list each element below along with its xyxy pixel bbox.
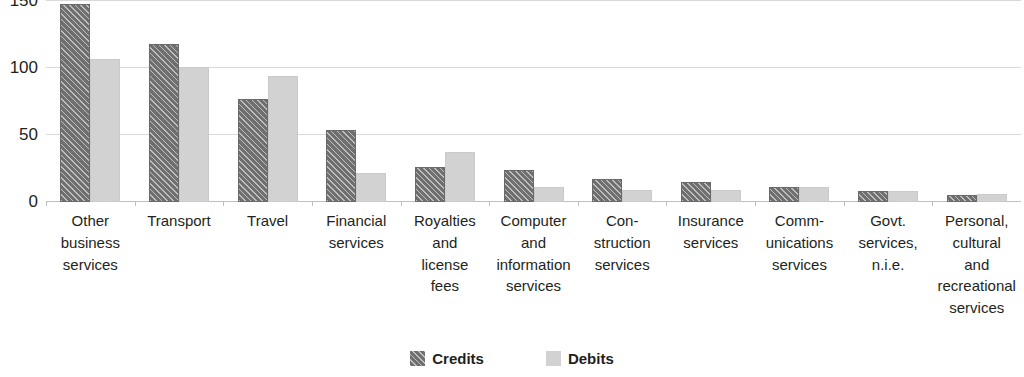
x-axis-label-line: Computer [491, 210, 576, 232]
x-axis-label-line: and [403, 232, 488, 254]
bar-group [46, 0, 135, 202]
x-axis-tick [666, 201, 667, 206]
legend-label: Credits [432, 350, 484, 367]
bar-group [578, 0, 667, 202]
bar-debits [534, 187, 564, 202]
bar-debits [445, 152, 475, 202]
bar-debits [90, 59, 120, 202]
x-axis-category-label: Travel [223, 210, 312, 319]
y-axis-tick-label: 50 [0, 126, 38, 143]
x-axis-tick [401, 201, 402, 206]
x-axis-category-label: Con-structionservices [578, 210, 667, 319]
bar-group [666, 0, 755, 202]
x-axis-label-line: Financial [314, 210, 399, 232]
bar-credits [149, 44, 179, 202]
bar-group [401, 0, 490, 202]
x-axis-category-label: Computerandinformationservices [489, 210, 578, 319]
bar-series-container [46, 0, 1021, 202]
bar-group [312, 0, 401, 202]
bar-group [755, 0, 844, 202]
bar-credits [60, 4, 90, 202]
bar-credits [947, 195, 977, 202]
credits-swatch [410, 351, 425, 366]
x-axis-label-line: Con- [580, 210, 665, 232]
bar-debits [268, 76, 298, 202]
bar-credits [415, 167, 445, 202]
bar-credits [238, 99, 268, 202]
x-axis-label-line: Personal, [934, 210, 1019, 232]
x-axis-label-line: Comm- [757, 210, 842, 232]
x-axis-category-label: Personal,culturalandrecreationalservices [932, 210, 1021, 319]
x-axis-label-line: services, [846, 232, 931, 254]
x-axis-tick [312, 201, 313, 206]
x-axis-category-label: Royaltiesandlicensefees [401, 210, 490, 319]
x-axis-tick [223, 201, 224, 206]
x-axis-tick [489, 201, 490, 206]
x-axis-label-line: recreational [934, 275, 1019, 297]
x-axis-label-line: services [668, 232, 753, 254]
bar-credits [592, 179, 622, 202]
bar-debits [356, 173, 386, 202]
bar-group [844, 0, 933, 202]
legend-item-debits[interactable]: Debits [546, 350, 614, 367]
x-axis-tick [46, 201, 47, 206]
x-axis-label-line: struction [580, 232, 665, 254]
x-axis-label-line: Other [48, 210, 133, 232]
x-axis-labels: OtherbusinessservicesTransportTravelFina… [46, 210, 1021, 319]
x-axis-label-line: fees [403, 275, 488, 297]
chart-page: 050100150 OtherbusinessservicesTransport… [0, 0, 1024, 377]
plot-area [46, 0, 1021, 202]
chart-legend: CreditsDebits [0, 350, 1024, 367]
y-axis-tick-label: 150 [0, 0, 38, 9]
x-axis-label-line: Royalties [403, 210, 488, 232]
x-axis-category-label: Otherbusinessservices [46, 210, 135, 319]
bar-debits [711, 190, 741, 202]
x-axis-category-label: Transport [135, 210, 224, 319]
bar-credits [769, 187, 799, 202]
bar-credits [326, 130, 356, 202]
bar-group [932, 0, 1021, 202]
x-axis-label-line: services [580, 254, 665, 276]
bar-credits [858, 191, 888, 202]
x-axis-label-line: Insurance [668, 210, 753, 232]
bar-group [135, 0, 224, 202]
y-axis-tick-label: 0 [0, 193, 38, 210]
x-axis-label-line: cultural [934, 232, 1019, 254]
bar-debits [977, 194, 1007, 202]
bar-group [223, 0, 312, 202]
x-axis-label-line: services [491, 275, 576, 297]
x-axis-label-line: services [757, 254, 842, 276]
x-axis-label-line: services [314, 232, 399, 254]
x-axis-label-line: services [934, 297, 1019, 319]
x-axis-label-line: Govt. [846, 210, 931, 232]
bar-debits [888, 191, 918, 202]
x-axis-category-label: Financialservices [312, 210, 401, 319]
bar-group [489, 0, 578, 202]
bar-debits [179, 67, 209, 202]
x-axis-label-line: business [48, 232, 133, 254]
x-axis-label-line: and [934, 254, 1019, 276]
x-axis-label-line: information [491, 254, 576, 276]
debits-swatch [546, 351, 561, 366]
x-axis-label-line: services [48, 254, 133, 276]
x-axis-tick [755, 201, 756, 206]
x-axis-label-line: n.i.e. [846, 254, 931, 276]
bar-credits [681, 182, 711, 202]
legend-label: Debits [568, 350, 614, 367]
bar-debits [799, 187, 829, 202]
x-axis-label-line: and [491, 232, 576, 254]
bar-debits [622, 190, 652, 202]
x-axis-tick [844, 201, 845, 206]
x-axis-label-line: license [403, 254, 488, 276]
x-axis-category-label: Comm-unicationsservices [755, 210, 844, 319]
x-axis-tick [135, 201, 136, 206]
x-axis-label-line: Travel [225, 210, 310, 232]
bar-credits [504, 170, 534, 202]
x-axis-label-line: Transport [137, 210, 222, 232]
x-axis-category-label: Insuranceservices [666, 210, 755, 319]
legend-item-credits[interactable]: Credits [410, 350, 484, 367]
x-axis-label-line: unications [757, 232, 842, 254]
x-axis-tick [578, 201, 579, 206]
y-axis-labels: 050100150 [0, 0, 46, 202]
x-axis-category-label: Govt.services,n.i.e. [844, 210, 933, 319]
